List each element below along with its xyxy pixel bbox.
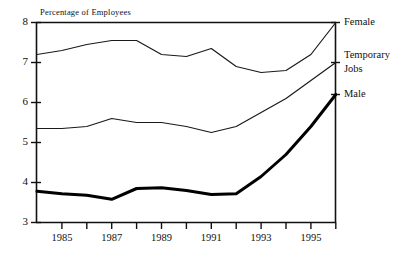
chart-axis-title: Percentage of Employees [40, 7, 131, 17]
x-tick-label-1989: 1989 [142, 232, 182, 243]
series-label-male: Male [344, 88, 366, 100]
x-tick-label-1987: 1987 [92, 232, 132, 243]
y-tick-label-8: 8 [12, 15, 28, 27]
y-tick-label-5: 5 [12, 135, 28, 147]
x-tick-label-1995: 1995 [291, 232, 331, 243]
axis-lines [36, 22, 336, 223]
series-label-female: Female [344, 16, 375, 28]
series-line-female [37, 23, 336, 73]
x-tick-label-1985: 1985 [42, 232, 82, 243]
chart-plot-area [0, 0, 408, 258]
series-group [37, 23, 336, 200]
y-tick-label-6: 6 [12, 95, 28, 107]
chart-figure: Percentage of Employees 8 7 6 5 4 3 1985… [0, 0, 408, 258]
x-tick-label-1993: 1993 [241, 232, 281, 243]
series-label-temporary-jobs-line1: Temporary [344, 49, 390, 61]
y-tick-label-7: 7 [12, 55, 28, 67]
y-tick-label-3: 3 [12, 215, 28, 227]
x-tick-label-1991: 1991 [191, 232, 231, 243]
y-tick-label-4: 4 [12, 175, 28, 187]
series-label-temporary-jobs-line2: Jobs [344, 63, 363, 75]
series-line-male [37, 95, 336, 200]
series-line-temporary-jobs [37, 63, 336, 133]
